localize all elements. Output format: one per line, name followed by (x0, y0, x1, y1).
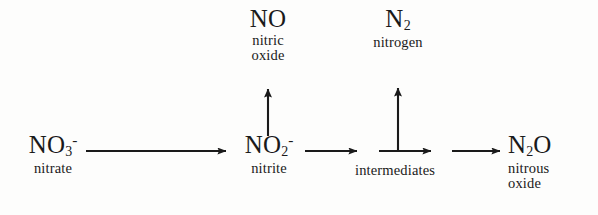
nitrous-oxide-formula-element-o: O (533, 131, 551, 158)
nitrite-formula-element: NO (245, 131, 282, 158)
nitrite-name: nitrite (232, 161, 306, 176)
nitrogen-formula-element: N (385, 5, 403, 32)
node-nitric-oxide: NO nitric oxide (223, 6, 313, 62)
nitric-oxide-name-line1: nitric (223, 33, 313, 48)
intermediates-name: intermediates (335, 163, 455, 178)
nitrogen-name: nitrogen (353, 35, 443, 50)
node-nitrate: NO3- nitrate (16, 132, 90, 176)
nitrate-formula-charge: - (72, 131, 77, 148)
nitrate-formula: NO3- (16, 132, 90, 159)
node-nitrous-oxide: N2O nitrous oxide (508, 132, 594, 190)
nitrate-formula-element: NO (29, 131, 66, 158)
nitric-oxide-formula: NO (223, 6, 313, 31)
nitrous-oxide-formula: N2O (508, 132, 594, 159)
nitrous-oxide-name-line2: oxide (508, 176, 594, 191)
denitrification-pathway-diagram: NO nitric oxide N2 nitrogen NO3- nitrate… (0, 0, 598, 215)
nitric-oxide-name-line2: oxide (223, 48, 313, 63)
nitrate-name: nitrate (16, 161, 90, 176)
nitrous-oxide-formula-element-n: N (508, 131, 526, 158)
node-intermediates: intermediates (335, 163, 455, 178)
nitrite-formula-charge: - (288, 131, 293, 148)
nitrogen-formula: N2 (353, 6, 443, 33)
nitrous-oxide-name-line1: nitrous (508, 161, 594, 176)
nitrite-formula: NO2- (232, 132, 306, 159)
node-nitrogen: N2 nitrogen (353, 6, 443, 50)
node-nitrite: NO2- nitrite (232, 132, 306, 176)
nitrogen-formula-subscript: 2 (404, 18, 411, 33)
